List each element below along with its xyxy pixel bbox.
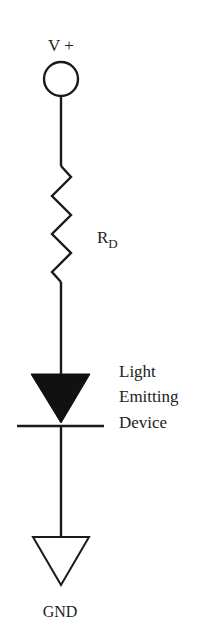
- circuit-diagram: V + RD Light Emitting Device GND: [0, 0, 204, 644]
- led-diode-icon: [31, 374, 90, 423]
- led-label-line-2: Emitting: [119, 387, 179, 406]
- resistor-label: RD: [97, 228, 118, 251]
- resistor-icon: [52, 166, 71, 282]
- ground-icon: [33, 537, 89, 585]
- supply-terminal-icon: [44, 62, 78, 96]
- ground-label: GND: [43, 603, 78, 620]
- led-label-line-3: Device: [119, 413, 167, 432]
- supply-label: V +: [48, 36, 74, 55]
- led-label-line-1: Light: [119, 362, 156, 381]
